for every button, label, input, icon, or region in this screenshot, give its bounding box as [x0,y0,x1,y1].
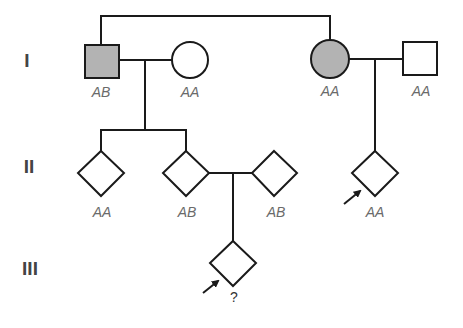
generation-label-1: I [24,50,29,71]
proband-arrow-III1 [203,281,218,293]
individual-II1-diamond [78,151,124,196]
individual-I3-affected-female [311,40,349,78]
individual-I2-unaffected-female [172,42,208,78]
sibship-line-gen2-left [101,130,186,151]
genotype-label-I3: AA [320,83,340,99]
genotype-label-II1: AA [92,204,112,220]
pedigree-diagram: I II III AB AA AA AA AA AB AB AA ? [0,0,463,328]
genotype-label-I1: AB [91,84,111,100]
generation-label-3: III [22,258,38,279]
individual-II3-diamond [252,151,297,196]
genotype-label-I2: AA [180,84,200,100]
individual-III1-diamond [210,241,256,286]
genotype-label-III1: ? [230,289,238,305]
genotype-label-II4: AA [365,204,385,220]
genotype-label-II3: AB [266,204,286,220]
individual-I4-unaffected-male [403,42,437,75]
sibling-line-gen1 [101,16,330,45]
individual-II4-diamond [352,151,398,196]
genotype-label-I4: AA [411,83,431,99]
individual-II2-diamond [163,151,209,196]
genotype-label-II2: AB [177,204,197,220]
generation-label-2: II [24,156,35,177]
individual-I1-affected-male [85,45,119,78]
proband-arrow-II4 [344,191,360,204]
